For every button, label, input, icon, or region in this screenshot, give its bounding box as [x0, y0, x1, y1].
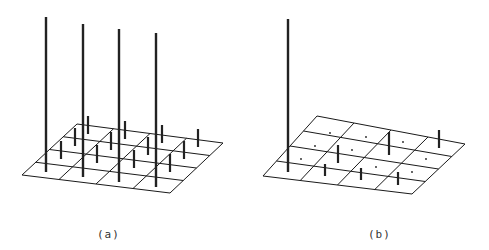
- short-bars: [325, 130, 439, 185]
- figure-canvas: [0, 0, 489, 250]
- panel-b-bar-grid: [263, 19, 465, 194]
- tall-bars: [46, 17, 156, 187]
- panel-a-bar-grid: [22, 17, 223, 193]
- grid-lines: [22, 124, 223, 193]
- panel-b-caption: (b): [368, 228, 391, 241]
- grid-lines: [263, 116, 465, 194]
- panel-a-caption: (a): [97, 228, 120, 241]
